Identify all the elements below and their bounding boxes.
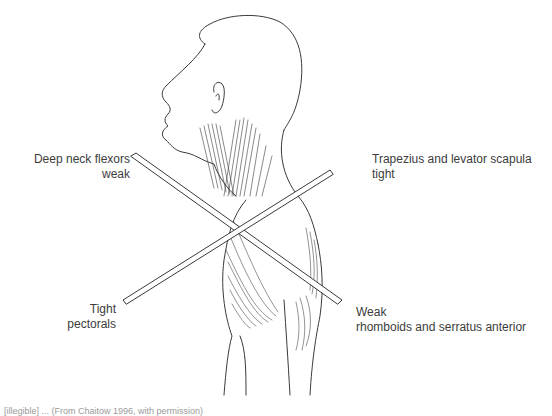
figure-caption: [illegible] ... (From Chaitow 1996, with… [4,406,203,416]
label-weak-rhomboids-serratus: Weak rhomboids and serratus anterior [356,305,552,335]
label-deep-neck-flexors: Deep neck flexors weak [20,152,130,182]
ear [212,82,224,113]
face-profile [162,44,236,196]
neck-muscles [200,118,272,196]
rhomboid-serratus-muscles [296,228,317,350]
crossed-rods [123,153,342,304]
label-trapezius-levator: Trapezius and levator scapula tight [372,152,552,182]
back-outline [310,244,322,395]
label-tight-pectorals: Tight pectorals [40,302,116,332]
rod-tight-muscles [123,170,333,304]
